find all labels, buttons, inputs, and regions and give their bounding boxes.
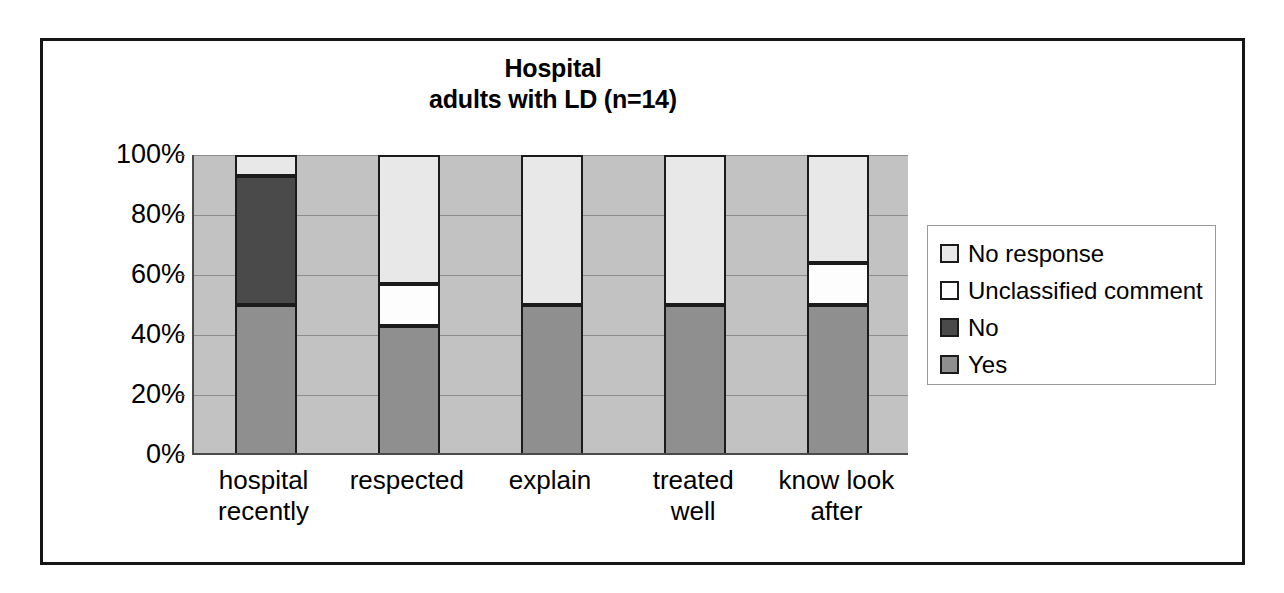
bar-segment-no[interactable] bbox=[235, 176, 297, 305]
x-axis-category-label-line: treated bbox=[622, 465, 765, 496]
bar-segment-yes[interactable] bbox=[807, 305, 869, 455]
bar-segment-no-response[interactable] bbox=[664, 155, 726, 305]
bar-group[interactable] bbox=[337, 155, 480, 455]
y-axis-tick-label: 100% bbox=[75, 141, 185, 168]
stacked-bar[interactable] bbox=[235, 155, 297, 455]
y-axis-tick-mark bbox=[178, 215, 185, 216]
stacked-bar[interactable] bbox=[378, 155, 440, 455]
bar-group[interactable] bbox=[624, 155, 767, 455]
legend-item[interactable]: Yes bbox=[940, 346, 1207, 383]
x-axis-category-label: explain bbox=[478, 465, 621, 496]
bar-segment-yes[interactable] bbox=[378, 326, 440, 455]
legend-swatch-icon bbox=[940, 318, 959, 337]
x-axis-category-label-line: recently bbox=[192, 496, 335, 527]
legend-label: No response bbox=[968, 242, 1104, 266]
bar-segment-yes[interactable] bbox=[235, 305, 297, 455]
legend-swatch-icon bbox=[940, 355, 959, 374]
legend-item[interactable]: No response bbox=[940, 235, 1207, 272]
bar-group[interactable] bbox=[480, 155, 623, 455]
y-axis-tick-label: 80% bbox=[75, 201, 185, 228]
legend-swatch-icon bbox=[940, 281, 959, 300]
bar-segment-yes[interactable] bbox=[521, 305, 583, 455]
x-axis-category-label-line: hospital bbox=[192, 465, 335, 496]
y-axis-tick-label: 0% bbox=[75, 441, 185, 468]
bar-segment-unclassified-comment[interactable] bbox=[807, 263, 869, 305]
legend-swatch-icon bbox=[940, 244, 959, 263]
x-axis-category-label: respected bbox=[335, 465, 478, 496]
bar-group[interactable] bbox=[194, 155, 337, 455]
y-axis-tick-mark bbox=[178, 335, 185, 336]
y-axis-tick-mark bbox=[178, 155, 185, 156]
bar-segment-no-response[interactable] bbox=[378, 155, 440, 284]
bar-segment-yes[interactable] bbox=[664, 305, 726, 455]
legend-item[interactable]: No bbox=[940, 309, 1207, 346]
y-axis-tick-label: 60% bbox=[75, 261, 185, 288]
y-axis-tick-mark bbox=[178, 275, 185, 276]
x-axis-category-label: know lookafter bbox=[765, 465, 908, 527]
x-axis-category-label-line: know look bbox=[765, 465, 908, 496]
x-axis-category-label-line: after bbox=[765, 496, 908, 527]
legend-label: Yes bbox=[968, 353, 1007, 377]
x-axis-category-labels: hospitalrecentlyrespectedexplaintreatedw… bbox=[192, 465, 908, 547]
plot-area bbox=[192, 155, 908, 455]
y-axis-tick-mark bbox=[178, 455, 185, 456]
bar-segment-no-response[interactable] bbox=[807, 155, 869, 263]
chart-title-line-2: adults with LD (n=14) bbox=[193, 84, 913, 115]
legend-label: No bbox=[968, 316, 999, 340]
chart-frame: Hospital adults with LD (n=14) 0%20%40%6… bbox=[40, 38, 1245, 565]
y-axis: 0%20%40%60%80%100% bbox=[53, 155, 185, 455]
legend-item[interactable]: Unclassified comment bbox=[940, 272, 1207, 309]
bar-segment-unclassified-comment[interactable] bbox=[378, 284, 440, 326]
y-axis-tick-label: 40% bbox=[75, 321, 185, 348]
chart-title-line-1: Hospital bbox=[193, 53, 913, 84]
chart-title: Hospital adults with LD (n=14) bbox=[193, 53, 913, 115]
x-axis-category-label-line: respected bbox=[335, 465, 478, 496]
x-axis-category-label-line: well bbox=[622, 496, 765, 527]
legend-label: Unclassified comment bbox=[968, 279, 1203, 303]
y-axis-tick-mark bbox=[178, 395, 185, 396]
x-axis-line bbox=[194, 453, 908, 455]
bar-segment-no-response[interactable] bbox=[235, 155, 297, 176]
x-axis-category-label-line: explain bbox=[478, 465, 621, 496]
bar-group[interactable] bbox=[767, 155, 910, 455]
stacked-bar[interactable] bbox=[807, 155, 869, 455]
stacked-bar[interactable] bbox=[521, 155, 583, 455]
stacked-bar[interactable] bbox=[664, 155, 726, 455]
legend: No responseUnclassified commentNoYes bbox=[927, 225, 1216, 385]
x-axis-category-label: treatedwell bbox=[622, 465, 765, 527]
x-axis-category-label: hospitalrecently bbox=[192, 465, 335, 527]
bar-segment-no-response[interactable] bbox=[521, 155, 583, 305]
y-axis-tick-label: 20% bbox=[75, 381, 185, 408]
